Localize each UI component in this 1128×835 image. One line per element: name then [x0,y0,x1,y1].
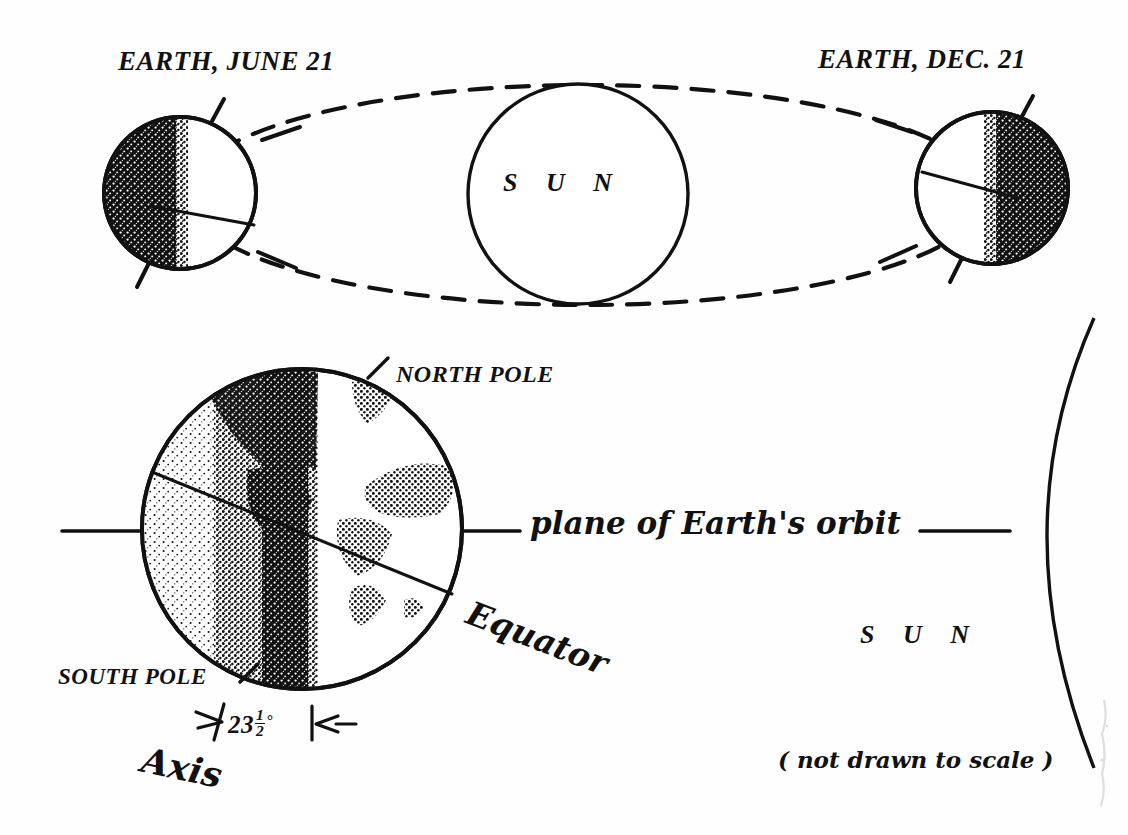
label-south-pole: SOUTH POLE [58,665,207,688]
tilt-dimension [196,704,356,740]
tilt-denominator: 2 [255,724,265,739]
earth-detail-globe [140,365,462,695]
diagram-canvas [0,0,1128,835]
tilt-whole-number: 23 [228,711,254,738]
earth-dec-globe [876,96,1076,282]
astronomy-diagram: EARTH, JUNE 21 EARTH, DEC. 21 S U N S U … [0,0,1128,835]
label-north-pole: NORTH POLE [396,362,554,386]
label-earth-june: EARTH, JUNE 21 [118,48,334,75]
label-plane-of-orbit: plane of Earth's orbit [530,508,901,539]
label-earth-dec: EARTH, DEC. 21 [818,46,1026,73]
label-sun-orbit-view: S U N [503,170,623,196]
tilt-fraction: 12 [255,708,265,738]
label-axial-tilt: 2312° [228,708,273,738]
label-sun-detail-view: S U N [860,622,980,648]
tilt-degree-symbol: ° [266,711,273,728]
scan-artifacts [1100,700,1108,806]
sun-arc-bottom [1047,318,1094,768]
label-not-to-scale: ( not drawn to scale ) [778,748,1053,771]
